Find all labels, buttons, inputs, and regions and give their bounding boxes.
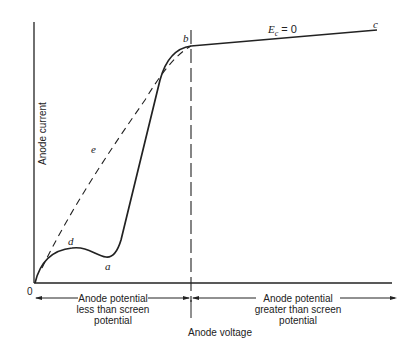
origin-label: 0	[27, 286, 33, 297]
region-right-text: Anode potential greater than screen pote…	[250, 293, 346, 326]
arrowhead-right	[390, 296, 397, 300]
point-label-b: b	[183, 33, 189, 44]
region-left-line3: potential	[76, 315, 150, 326]
y-axis-label: Anode current	[37, 94, 48, 174]
region-left-text: Anode potential less than screen potenti…	[76, 293, 150, 326]
dashed-curve-e	[42, 46, 191, 268]
point-label-d: d	[68, 236, 74, 247]
point-label-e: e	[91, 144, 96, 155]
point-label-c: c	[373, 19, 378, 30]
arrowhead-left-region-end	[183, 296, 190, 300]
x-axis-label: Anode voltage	[188, 327, 252, 338]
curve-label-e: E	[268, 23, 275, 35]
region-left-line2: less than screen	[76, 304, 150, 315]
solid-curve-characteristic	[35, 30, 377, 283]
arrowhead-right-region-start	[192, 296, 199, 300]
curve-label-ec0: Ec = 0	[268, 24, 297, 39]
region-left-line1: Anode potential	[76, 293, 150, 304]
region-right-line2: greater than screen	[250, 304, 346, 315]
arrowhead-left	[35, 296, 42, 300]
region-right-line3: potential	[250, 315, 346, 326]
region-right-line1: Anode potential	[250, 293, 346, 304]
point-label-a: a	[105, 261, 111, 272]
curve-label-rest: = 0	[278, 23, 297, 35]
